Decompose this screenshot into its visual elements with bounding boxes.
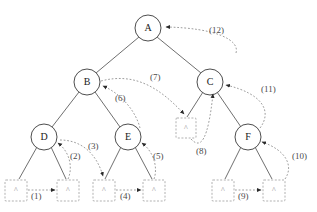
step-label-1: (1) [31,192,42,201]
edge-b-d [52,92,79,127]
arrow-step-10 [262,142,289,179]
tree-edges [19,37,272,179]
step-label-9: (9) [238,192,249,201]
step-label-8: (8) [196,147,207,156]
node-f-circle [235,124,261,150]
nil-glyph-6: ^ [212,187,234,195]
tree-nodes [31,15,261,150]
edge-f-nil6 [225,147,241,179]
step-label-10: (10) [292,152,307,161]
node-c-circle [197,69,223,95]
arrow-step-11 [226,85,265,128]
edge-d-nil1 [19,147,37,179]
traversal-arrows [28,27,289,190]
nil-glyph-3: ^ [93,187,115,195]
nil-glyph-7: ^ [263,187,285,195]
arrow-step-7 [101,78,184,114]
tree-diagram-canvas: A B C D E F ^ ^ ^ ^ ^ ^ ^ (1) (2) (3) (4… [0,0,317,212]
arrow-step-2 [58,143,70,179]
node-d-circle [31,124,57,150]
node-e-circle [115,124,141,150]
edge-f-nil7 [255,147,272,179]
node-b-circle [74,69,100,95]
arrow-step-12 [166,27,236,53]
edge-a-b [96,37,139,73]
nil-glyph-4: ^ [143,187,165,195]
step-label-12: (12) [209,26,224,35]
step-label-4: (4) [120,192,131,201]
edge-e-nil4 [135,147,152,179]
nil-glyph-5: ^ [176,125,196,133]
step-label-5: (5) [153,152,164,161]
nil-glyph-1: ^ [5,187,27,195]
edge-d-nil2 [51,147,66,179]
edge-a-c [157,37,201,73]
step-label-11: (11) [261,85,276,94]
step-label-2: (2) [70,152,81,161]
diagram-svg [0,0,317,212]
edge-c-nil [187,92,203,117]
step-label-3: (3) [88,142,99,151]
edge-c-f [217,92,241,127]
step-label-6: (6) [115,94,126,103]
step-label-7: (7) [150,73,161,82]
node-a-circle [135,15,161,41]
edge-e-nil3 [105,147,121,179]
nil-glyph-2: ^ [57,187,79,195]
